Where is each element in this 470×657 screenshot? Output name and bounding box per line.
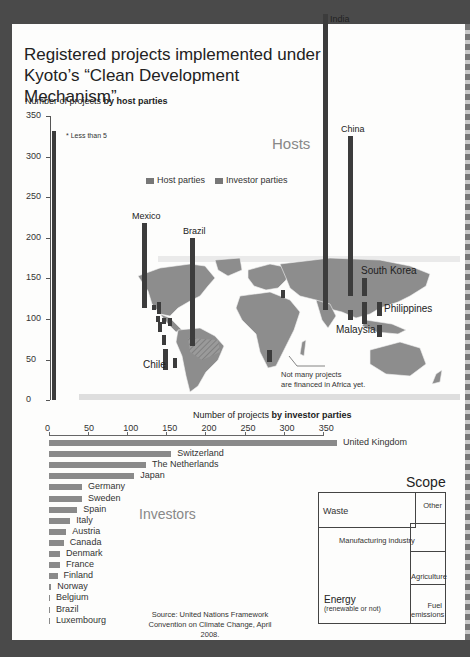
footnote: * Less than 5 <box>66 132 107 139</box>
host-scale-bar <box>52 131 56 400</box>
legend-investor-swatch <box>215 178 223 184</box>
scope-fuel-label-1: Fuel <box>411 601 442 610</box>
host-bar-small <box>348 310 353 320</box>
investor-axis-title-prefix: Number of projects <box>193 410 272 420</box>
map-base-strip <box>79 394 460 400</box>
y-tick-mark <box>46 400 50 401</box>
investor-label: Finland <box>64 570 94 580</box>
x-tick-label: 150 <box>162 423 177 433</box>
page-binding-edge <box>465 24 470 640</box>
y-tick-mark <box>46 197 50 198</box>
host-bar-india <box>323 14 328 310</box>
host-axis-title: Number of projects by host parties <box>25 96 168 106</box>
investor-bar <box>49 440 337 446</box>
host-bar-small <box>162 318 166 324</box>
host-bar-small <box>377 325 382 337</box>
host-bar-brazil <box>190 238 195 346</box>
investor-label: Norway <box>57 581 88 591</box>
investors-heading: Investors <box>139 506 196 522</box>
investor-label: Sweden <box>88 493 121 503</box>
host-axis-title-bold: by host parties <box>104 96 168 106</box>
investor-label: United Kingdom <box>343 437 407 447</box>
label-brazil: Brazil <box>183 226 206 236</box>
label-south-korea: South Korea <box>361 265 417 276</box>
investor-label: Brazil <box>56 604 79 614</box>
investor-bar <box>49 462 146 468</box>
investor-label: Austria <box>72 526 100 536</box>
y-axis <box>50 116 51 400</box>
scope-heading: Scope <box>406 474 446 490</box>
y-tick-mark <box>46 238 50 239</box>
x-tick-mark <box>205 432 206 436</box>
y-tick-label: 0 <box>26 394 31 404</box>
x-tick-label: 100 <box>123 423 138 433</box>
investor-bar <box>49 562 60 568</box>
scope-energy-sub: (renewable or not) <box>324 604 381 613</box>
x-tick-mark <box>127 432 128 436</box>
scope-other-label: Other <box>423 501 442 510</box>
host-bar-mexico <box>142 223 147 308</box>
host-bar-south-korea <box>362 278 367 296</box>
investor-bar <box>49 518 70 524</box>
x-tick-label: 350 <box>319 423 334 433</box>
y-tick-label: 150 <box>26 272 41 282</box>
x-tick-mark <box>284 432 285 436</box>
investor-axis-title: Number of projects by investor parties <box>193 410 352 420</box>
investor-label: Japan <box>140 470 165 480</box>
investor-bar <box>49 595 50 601</box>
scope-manufacturing <box>410 523 446 552</box>
label-india: India <box>330 14 350 24</box>
label-philippines: Philippines <box>384 303 432 314</box>
investor-label: Belgium <box>56 592 89 602</box>
africa-note-line-2: are financed in Africa yet. <box>281 380 365 390</box>
investor-bar <box>49 507 77 513</box>
y-tick-label: 350 <box>26 110 41 120</box>
title-line-1: Registered projects implemented under <box>24 44 324 65</box>
y-tick-label: 100 <box>26 313 41 323</box>
investor-bar <box>49 607 50 613</box>
host-bar-small <box>168 318 172 326</box>
investor-label: France <box>66 559 94 569</box>
investor-label: Denmark <box>66 548 103 558</box>
legend-investor: Investor parties <box>215 175 288 185</box>
y-tick-label: 300 <box>26 151 41 161</box>
scope-treemap: Waste Other Manufacturing industry Agric… <box>318 492 446 624</box>
y-tick-label: 200 <box>26 232 41 242</box>
investor-bar <box>49 618 50 624</box>
x-tick-mark <box>323 432 324 436</box>
scope-waste-label: Waste <box>323 506 348 516</box>
x-tick-mark <box>166 432 167 436</box>
label-malaysia: Malaysia <box>336 324 375 335</box>
host-bar-indonesia <box>362 302 367 324</box>
scope-agriculture-label: Agriculture <box>411 572 447 581</box>
scope-waste: Waste <box>318 492 416 528</box>
y-tick-mark <box>46 116 50 117</box>
scope-other: Other <box>415 492 446 524</box>
scope-manufacturing-label: Manufacturing industry <box>339 536 415 545</box>
investor-bar <box>49 551 60 557</box>
x-tick-label: 250 <box>241 423 256 433</box>
investor-axis-title-bold: by investor parties <box>272 410 352 420</box>
host-bar-small <box>162 335 166 345</box>
legend-host: Host parties <box>146 175 205 185</box>
investor-bar <box>49 496 82 502</box>
legend: Host parties Investor parties <box>146 175 288 185</box>
source-line-2: Convention on Climate Change, April 2008… <box>140 620 280 640</box>
y-tick-label: 50 <box>26 354 36 364</box>
africa-note: Not many projects are financed in Africa… <box>281 370 365 390</box>
x-axis <box>49 435 323 436</box>
scope-fuel-emissions: Fuel emissions <box>410 584 446 624</box>
legend-host-swatch <box>146 178 154 184</box>
host-bar-china <box>348 136 353 296</box>
x-tick-label: 50 <box>84 423 94 433</box>
investor-label: Canada <box>70 537 102 547</box>
source-line-1: Source: United Nations Framework <box>140 610 280 620</box>
host-bar-south-africa <box>267 350 272 362</box>
host-bar-small <box>157 302 161 314</box>
scope-fuel-label-2: emissions <box>411 610 442 619</box>
investor-bar <box>49 584 51 590</box>
scope-energy: Energy (renewable or not) <box>324 595 381 613</box>
scope-energy-label: Energy <box>324 595 381 604</box>
y-tick-mark <box>46 360 50 361</box>
investor-label: Switzerland <box>177 448 224 458</box>
